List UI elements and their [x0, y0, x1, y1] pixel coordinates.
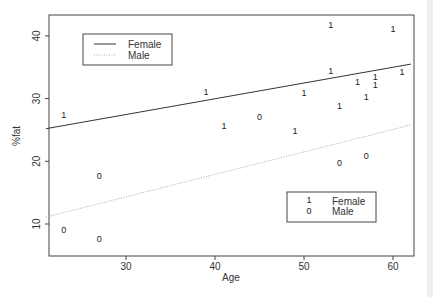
male-point: 0 — [97, 171, 102, 181]
male-point: 0 — [337, 158, 342, 168]
male-point: 0 — [257, 112, 262, 122]
legend-male-symbol: 0 — [306, 206, 311, 216]
female-point: 1 — [204, 87, 209, 97]
female-point: 1 — [399, 67, 404, 77]
female-point: 1 — [373, 80, 378, 90]
female-point: 1 — [61, 110, 66, 120]
x-tick-label: 40 — [209, 261, 221, 272]
y-tick-label: 20 — [31, 155, 42, 167]
female-point: 1 — [221, 121, 226, 131]
x-axis: 30405060 — [120, 256, 399, 272]
female-point: 1 — [364, 92, 369, 102]
scatter-chart: 30405060 10203040 Age %fat 1111111111111… — [0, 0, 433, 297]
x-tick-label: 60 — [387, 261, 399, 272]
legend-female-symbol: 1 — [306, 195, 311, 205]
legend-male-label-2: Male — [332, 206, 354, 217]
x-tick-label: 30 — [120, 261, 132, 272]
y-tick-label: 40 — [31, 30, 42, 42]
female-point: 1 — [328, 66, 333, 76]
female-point: 1 — [390, 24, 395, 34]
x-axis-label: Age — [222, 272, 240, 283]
male-point: 0 — [61, 225, 66, 235]
male-point: 0 — [364, 151, 369, 161]
x-tick-label: 50 — [298, 261, 310, 272]
legend-symbols: 1 0 Female Male — [287, 192, 376, 222]
male-point: 0 — [97, 234, 102, 244]
female-point: 1 — [328, 20, 333, 30]
legend-female-label: Female — [128, 39, 162, 50]
y-tick-label: 30 — [31, 93, 42, 105]
female-point: 1 — [337, 101, 342, 111]
legend-lines: Female Male — [83, 34, 172, 65]
y-axis: 10203040 — [31, 30, 49, 230]
female-fit-line — [46, 64, 411, 129]
female-point: 1 — [301, 88, 306, 98]
y-axis-label: %fat — [11, 126, 22, 146]
female-point: 1 — [355, 77, 360, 87]
female-point: 1 — [293, 126, 298, 136]
y-tick-label: 10 — [31, 218, 42, 230]
legend-male-label: Male — [128, 50, 150, 61]
